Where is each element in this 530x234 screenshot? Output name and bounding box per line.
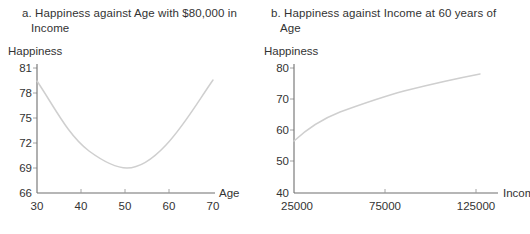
panel-b-data-curve (294, 74, 480, 141)
panel-b-y-tick-marks (290, 68, 294, 161)
y-tick-label: 60 (276, 124, 289, 136)
x-tick-label: 40 (75, 200, 88, 212)
panel-a-y-tick-marks (33, 68, 37, 168)
happiness-figure: a. Happiness against Age with $80,000 in… (0, 0, 530, 234)
panel-a-x-tick-labels: 30 40 50 60 70 (31, 200, 220, 212)
x-tick-label: 30 (31, 200, 44, 212)
y-tick-label: 66 (19, 187, 32, 199)
panel-b-y-tick-labels: 80 70 60 50 40 (276, 62, 289, 199)
y-tick-label: 75 (19, 112, 32, 124)
panel-a-y-tick-labels: 81 78 75 72 69 66 (19, 62, 32, 199)
x-tick-label: 75000 (369, 200, 401, 212)
y-tick-label: 72 (19, 137, 32, 149)
y-tick-label: 40 (276, 187, 289, 199)
y-tick-label: 81 (19, 62, 32, 74)
y-tick-label: 50 (276, 155, 289, 167)
panel-b-x-tick-marks (385, 189, 476, 193)
x-tick-label: 125000 (457, 200, 495, 212)
chart-panel-b: b. Happiness against Income at 60 years … (258, 0, 530, 234)
y-tick-label: 69 (19, 162, 32, 174)
x-tick-label: 50 (119, 200, 132, 212)
panel-b-plot: 80 70 60 50 40 (258, 0, 530, 234)
chart-panel-a: a. Happiness against Age with $80,000 in… (0, 0, 258, 234)
panel-a-x-tick-marks (81, 189, 169, 193)
x-tick-label: 60 (163, 200, 176, 212)
panel-a-x-axis-name: Age (219, 187, 239, 199)
y-tick-label: 70 (276, 93, 289, 105)
panel-a-plot: 81 78 75 72 69 66 (0, 0, 258, 234)
panel-b-x-axis-name: Income (503, 187, 530, 199)
y-tick-label: 80 (276, 62, 289, 74)
panel-a-data-curve (37, 80, 213, 168)
x-tick-label: 70 (207, 200, 220, 212)
x-tick-label: 25000 (281, 200, 313, 212)
y-tick-label: 78 (19, 87, 32, 99)
panel-b-x-tick-labels: 25000 75000 125000 (281, 200, 495, 212)
